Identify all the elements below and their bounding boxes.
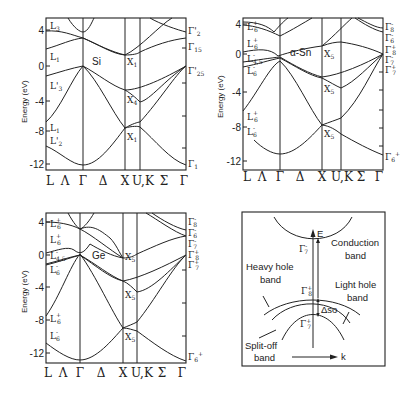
sn-ytick-m12: -12 [227,156,242,167]
si-ytick-m8: -8 [35,126,44,137]
energy-axis-label: E [317,228,323,239]
svg-text:X5: X5 [125,290,135,301]
svg-text:Γ: Γ [178,366,186,380]
gamma7-plus-label: Γ+7 [300,317,311,330]
svg-text:L-6: L-6 [50,328,60,342]
ge-ytick-4: 4 [38,217,44,228]
ge-ytick-m12: -12 [30,348,45,359]
light-hole-label-2: band [347,292,368,303]
sn-frame [243,18,383,170]
ge-ytick-m8: -8 [35,315,44,326]
svg-text:X: X [121,174,130,188]
svg-text:L-6: L-6 [50,262,60,276]
svg-text:Γ: Γ [276,170,284,184]
svg-text:Γ+7: Γ+7 [385,63,396,76]
svg-text:L1: L1 [50,123,60,134]
svg-text:L+6: L+6 [50,232,61,246]
sn-ytick-m8: -8 [232,122,241,133]
svg-text:L-4,5: L-4,5 [50,248,66,262]
svg-text:L1: L1 [50,52,60,63]
svg-text:Γ: Γ [375,170,383,184]
svg-text:Δ: Δ [296,170,305,184]
heavy-hole-curve [264,300,360,315]
svg-text:L3: L3 [50,21,60,32]
ge-y-ticks [46,222,186,353]
svg-text:L+6: L+6 [247,109,258,123]
svg-text:X5: X5 [324,129,334,140]
sn-x-labels: L Λ Γ Δ X U,K Σ Γ [243,170,383,184]
svg-text:Λ: Λ [58,366,68,380]
svg-text:Γ'2: Γ'2 [188,26,201,37]
ge-y-axis-label: Energy (eV) [20,270,29,313]
svg-text:L+6: L+6 [50,311,61,325]
svg-text:X5: X5 [324,49,334,60]
svg-text:X5: X5 [125,332,135,343]
svg-text:Γ+7: Γ+7 [188,258,199,271]
svg-text:X1: X1 [127,132,137,143]
svg-text:X1: X1 [127,57,137,68]
svg-text:L-6: L-6 [247,124,257,138]
k-axis-label: k [341,351,346,362]
svg-text:Σ: Σ [357,170,365,184]
svg-text:Γ6+: Γ6+ [385,150,400,163]
sn-material-label: α-Sn [290,47,311,58]
sn-ytick-m4: -4 [232,87,241,98]
svg-text:X4: X4 [127,95,137,106]
si-ytick-0: 0 [38,61,44,72]
svg-text:Δ: Δ [99,174,108,188]
svg-text:L+6: L+6 [247,19,258,33]
sn-ytick-0: 0 [235,49,241,60]
svg-text:L: L [46,174,54,188]
svg-text:L: L [44,366,52,380]
svg-text:Γ: Γ [180,174,188,188]
sn-panel: 4 0 -4 -8 -12 Energy (eV) α-Sn L+6 L+6 L… [216,18,400,184]
gamma7-minus-label: Γ-7 [299,242,308,255]
svg-text:U,K: U,K [131,366,154,380]
split-off-label-1: Split-off [245,340,277,351]
heavy-hole-label-1: Heavy hole [246,261,294,272]
svg-text:Γ'25: Γ'25 [188,66,205,77]
si-panel: 4 0 -4 -8 -12 Energy (eV) Si L3 L1 L'3 L… [20,18,205,188]
heavy-hole-label-2: band [260,274,281,285]
ge-panel: 4 0 -4 -8 -12 Energy (eV) Ge L+6 L+6 L-4… [20,213,203,380]
si-material-label: Si [92,56,101,67]
light-hole-label-1: Light hole [335,279,376,290]
si-frame [46,18,186,170]
svg-text:X5: X5 [324,84,334,95]
svg-text:Δ: Δ [97,366,106,380]
svg-text:X: X [119,366,128,380]
delta-so-label: Δso [321,304,337,315]
ge-material-label: Ge [92,250,106,261]
svg-text:L'2: L'2 [50,136,62,147]
svg-text:Γ6+: Γ6+ [188,350,203,363]
si-annotations: L3 L1 L'3 L1 L'2 X1 X4 X1 Γ'2 Γ15 Γ'25 Γ… [50,21,205,170]
svg-text:Σ: Σ [160,174,168,188]
svg-text:Γ: Γ [79,174,87,188]
svg-text:L-6: L-6 [247,63,257,77]
split-off-label-2: band [254,352,275,363]
svg-text:X: X [318,170,327,184]
conduction-band-label-1: Conduction [331,237,379,248]
svg-text:Γ: Γ [76,366,84,380]
sn-bands [243,18,383,155]
si-ytick-m4: -4 [35,96,44,107]
conduction-band-label-2: band [345,250,366,261]
ge-ytick-0: 0 [38,250,44,261]
svg-text:L'3: L'3 [50,81,62,92]
svg-text:Σ: Σ [158,366,166,380]
svg-text:Λ: Λ [60,174,70,188]
si-y-ticks [46,30,186,164]
svg-text:L+6: L+6 [247,36,258,50]
si-ytick-m12: -12 [30,159,45,170]
k-axis-arrow-icon [330,355,338,360]
svg-text:Γ1: Γ1 [188,159,198,170]
schematic-panel: E k Γ-7 Γ+8 Γ+7 Δso Conduction band Heav… [242,212,385,366]
si-y-axis-label: Energy (eV) [20,80,29,123]
svg-text:L: L [243,170,251,184]
ge-bands [46,213,186,361]
svg-text:U,K: U,K [132,174,155,188]
ge-x-labels: L Λ Γ Δ X U,K Σ Γ [44,366,186,380]
svg-text:Γ15: Γ15 [188,42,202,53]
svg-text:X5: X5 [125,252,135,263]
si-ytick-4: 4 [38,25,44,36]
